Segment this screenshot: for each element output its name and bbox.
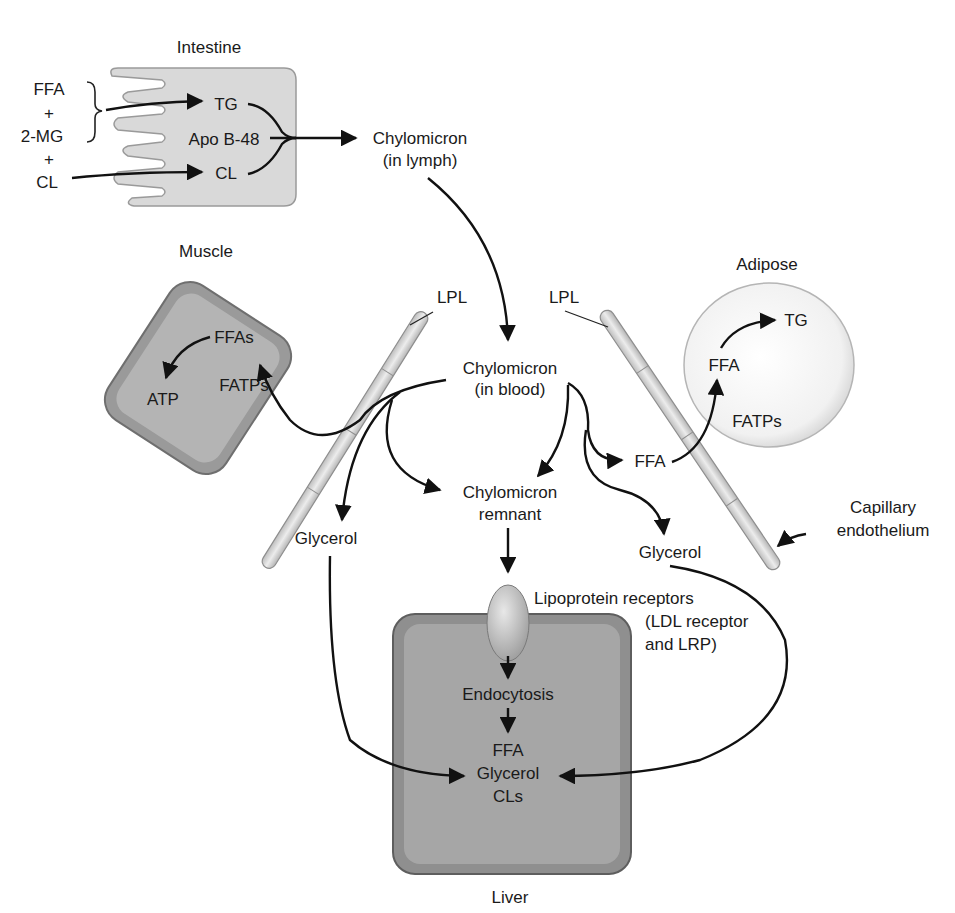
muscle-atp: ATP bbox=[147, 390, 179, 409]
intestine-tg: TG bbox=[214, 95, 238, 114]
adipose-title: Adipose bbox=[736, 255, 797, 274]
arrow-blood-to-glycerol-right bbox=[585, 430, 664, 534]
arrow-lymph-to-blood bbox=[428, 178, 508, 340]
liver-cls: CLs bbox=[493, 787, 523, 806]
remnant-line2: remnant bbox=[479, 505, 542, 524]
intestine-title: Intestine bbox=[177, 38, 241, 57]
remnant-line1: Chylomicron bbox=[463, 483, 557, 502]
muscle-ffas: FFAs bbox=[214, 328, 254, 347]
input-2mg: 2-MG bbox=[21, 127, 64, 146]
receptors-line1: Lipoprotein receptors bbox=[534, 589, 694, 608]
adipose-fatps: FATPs bbox=[732, 412, 782, 431]
glycerol-left: Glycerol bbox=[295, 529, 357, 548]
input-plus-2: + bbox=[44, 150, 54, 169]
ffa-blood: FFA bbox=[634, 452, 666, 471]
glycerol-right: Glycerol bbox=[639, 543, 701, 562]
liver-ffa: FFA bbox=[492, 741, 524, 760]
chylomicron-lymph-line1: Chylomicron bbox=[373, 129, 467, 148]
input-ffa: FFA bbox=[33, 80, 65, 99]
lpl-left-label: LPL bbox=[437, 288, 467, 307]
arrow-capillary-pointer bbox=[778, 534, 806, 546]
arrow-blood-to-remnant-left bbox=[387, 400, 440, 490]
chylomicron-blood-line1: Chylomicron bbox=[463, 359, 557, 378]
adipose-tg: TG bbox=[784, 311, 808, 330]
chylomicron-metabolism-diagram: Intestine FFA + 2-MG + CL TG Apo B-48 CL… bbox=[0, 0, 955, 913]
liver-endocytosis: Endocytosis bbox=[462, 685, 554, 704]
input-plus-1: + bbox=[44, 104, 54, 123]
capillary-line2: endothelium bbox=[837, 521, 930, 540]
muscle-cell bbox=[96, 273, 301, 483]
receptors-line2: (LDL receptor bbox=[645, 612, 749, 631]
lipoprotein-receptor-icon bbox=[487, 585, 529, 661]
input-cl: CL bbox=[36, 173, 58, 192]
arrow-blood-to-ffa bbox=[568, 383, 622, 460]
liver-glycerol: Glycerol bbox=[477, 764, 539, 783]
adipose-ffa: FFA bbox=[708, 356, 740, 375]
capillary-line1: Capillary bbox=[850, 498, 917, 517]
lpl-right-label: LPL bbox=[549, 288, 579, 307]
intestine-cl: CL bbox=[215, 164, 237, 183]
receptors-line3: and LRP) bbox=[645, 635, 717, 654]
intestine-apo-b48: Apo B-48 bbox=[189, 130, 260, 149]
muscle-fatps: FATPs bbox=[219, 376, 269, 395]
liver-title: Liver bbox=[492, 888, 529, 907]
chylomicron-blood-line2: (in blood) bbox=[475, 380, 546, 399]
muscle-title: Muscle bbox=[179, 242, 233, 261]
chylomicron-lymph-line2: (in lymph) bbox=[383, 151, 458, 170]
arrow-blood-to-muscle-ffas bbox=[260, 365, 446, 435]
brace-icon bbox=[87, 82, 102, 142]
